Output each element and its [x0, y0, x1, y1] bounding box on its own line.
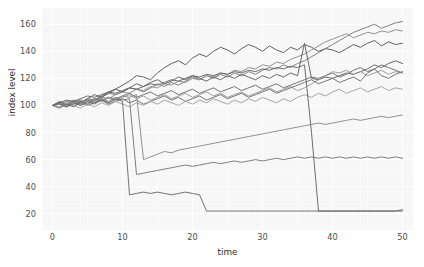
x-tick-label: 20 — [187, 233, 198, 241]
y-tick-label: 20 — [0, 210, 36, 218]
chart-container: 20406080100120140160 01020304050 time in… — [0, 0, 424, 267]
y-tick-label: 120 — [0, 74, 36, 82]
x-tick-label: 10 — [117, 233, 128, 241]
y-tick-label: 40 — [0, 183, 36, 191]
x-tick-label: 0 — [50, 233, 55, 241]
x-tick-label: 40 — [327, 233, 338, 241]
series-lines — [42, 8, 413, 230]
y-axis-tick-labels: 20406080100120140160 — [0, 8, 36, 230]
series-line — [53, 97, 403, 174]
y-axis-title: index level — [8, 42, 17, 142]
x-axis-title: time — [42, 248, 413, 257]
series-line — [53, 99, 403, 211]
plot-panel — [42, 8, 413, 230]
y-tick-label: 80 — [0, 128, 36, 136]
y-tick-label: 100 — [0, 101, 36, 109]
x-tick-label: 30 — [257, 233, 268, 241]
x-tick-label: 50 — [397, 233, 408, 241]
y-tick-label: 160 — [0, 20, 36, 28]
x-axis-tick-labels: 01020304050 — [42, 233, 413, 247]
y-tick-label: 140 — [0, 47, 36, 55]
y-tick-label: 60 — [0, 156, 36, 164]
series-line — [53, 65, 403, 211]
